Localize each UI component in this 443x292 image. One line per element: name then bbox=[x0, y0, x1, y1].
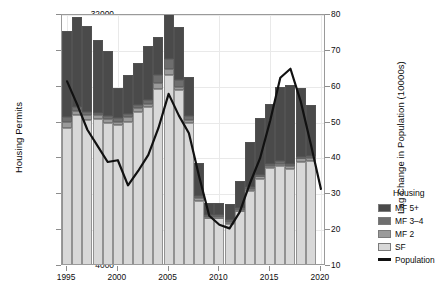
x-tick-mark bbox=[117, 266, 118, 271]
legend: Housing MF 5+MF 3–4MF 2SFPopulation bbox=[378, 188, 442, 267]
housing-permits-chart: Housing Permits Lag Change in Population… bbox=[0, 0, 443, 292]
y-tick-mark-right bbox=[325, 157, 330, 158]
x-tick-label: 1995 bbox=[57, 272, 76, 282]
y-tick-label-right: 10 bbox=[331, 260, 340, 270]
legend-color-swatch bbox=[378, 243, 391, 251]
y-axis-label-left: Housing Permits bbox=[13, 78, 24, 198]
y-tick-label-right: 80 bbox=[331, 9, 340, 19]
plot-area bbox=[61, 14, 325, 265]
y-tick-label-right: 40 bbox=[331, 152, 340, 162]
legend-color-swatch bbox=[378, 230, 391, 238]
legend-line-swatch bbox=[378, 258, 391, 261]
y-tick-label-right: 70 bbox=[331, 45, 340, 55]
y-tick-mark-right bbox=[325, 122, 330, 123]
legend-color-swatch bbox=[378, 217, 391, 225]
x-tick-label: 2000 bbox=[108, 272, 127, 282]
y-tick-mark-right bbox=[325, 265, 330, 266]
x-tick-mark bbox=[218, 266, 219, 271]
legend-item[interactable]: MF 2 bbox=[378, 228, 442, 240]
y-tick-mark-right bbox=[325, 14, 330, 15]
y-tick-label-right: 50 bbox=[331, 117, 340, 127]
legend-item[interactable]: MF 3–4 bbox=[378, 215, 442, 227]
legend-item[interactable]: SF bbox=[378, 241, 442, 253]
x-tick-mark bbox=[168, 266, 169, 271]
population-line-layer bbox=[62, 15, 325, 265]
legend-item[interactable]: Population bbox=[378, 254, 442, 266]
x-tick-mark bbox=[66, 266, 67, 271]
y-tick-mark-right bbox=[325, 193, 330, 194]
legend-item-label: MF 5+ bbox=[395, 203, 419, 213]
x-tick-label: 2010 bbox=[209, 272, 228, 282]
legend-title: Housing bbox=[393, 188, 442, 198]
legend-item-label: MF 3–4 bbox=[395, 216, 423, 226]
legend-color-swatch bbox=[378, 204, 391, 212]
y-tick-label-right: 30 bbox=[331, 188, 340, 198]
y-tick-label-right: 20 bbox=[331, 224, 340, 234]
population-line bbox=[67, 69, 321, 229]
x-tick-label: 2005 bbox=[158, 272, 177, 282]
x-tick-label: 2020 bbox=[311, 272, 330, 282]
legend-items: MF 5+MF 3–4MF 2SFPopulation bbox=[378, 202, 442, 266]
legend-item-label: SF bbox=[395, 242, 406, 252]
legend-item-label: Population bbox=[395, 255, 435, 265]
x-tick-mark bbox=[320, 266, 321, 271]
y-tick-mark-left bbox=[56, 265, 61, 266]
legend-item[interactable]: MF 5+ bbox=[378, 202, 442, 214]
y-tick-label-right: 60 bbox=[331, 81, 340, 91]
y-tick-mark-right bbox=[325, 229, 330, 230]
y-tick-mark-right bbox=[325, 50, 330, 51]
x-tick-mark bbox=[269, 266, 270, 271]
legend-item-label: MF 2 bbox=[395, 229, 414, 239]
y-tick-mark-right bbox=[325, 86, 330, 87]
x-tick-label: 2015 bbox=[260, 272, 279, 282]
